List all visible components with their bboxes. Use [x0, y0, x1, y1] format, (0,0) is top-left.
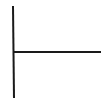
diagram-canvas — [0, 0, 111, 98]
vertical-line — [13, 6, 14, 98]
